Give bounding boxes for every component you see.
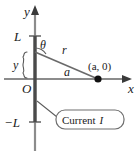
callout-leader-line bbox=[37, 101, 57, 117]
y-brace bbox=[23, 52, 27, 78]
segment-height-label: y bbox=[12, 58, 19, 72]
tick-label-upper-L: L bbox=[13, 29, 21, 44]
y-axis-label: y bbox=[22, 4, 30, 19]
field-point-label: (a, 0) bbox=[88, 60, 112, 73]
origin-label: O bbox=[22, 81, 32, 96]
diagram-canvas: y x O L −L θ r y a (a, 0) CurrentI bbox=[0, 0, 139, 151]
callout-word: Current bbox=[62, 114, 96, 126]
tick-label-lower-L: −L bbox=[4, 115, 20, 130]
horizontal-distance-label: a bbox=[64, 65, 70, 79]
y-axis-arrowhead bbox=[31, 5, 39, 15]
angle-label: θ bbox=[40, 38, 46, 52]
physics-diagram-figure: y x O L −L θ r y a (a, 0) CurrentI bbox=[0, 0, 139, 151]
radius-label: r bbox=[62, 43, 67, 57]
x-axis-label: x bbox=[127, 81, 134, 96]
field-point-marker bbox=[94, 75, 101, 82]
